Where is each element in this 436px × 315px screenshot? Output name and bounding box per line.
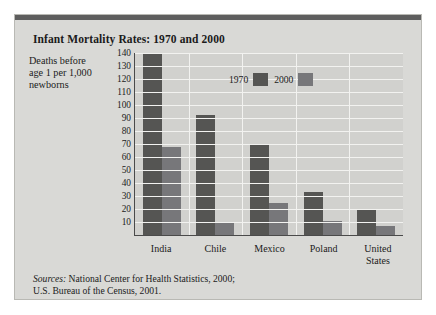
- x-label-line-1: Poland: [297, 243, 351, 255]
- chart-card: Infant Mortality Rates: 1970 and 2000 De…: [14, 14, 422, 300]
- y-tick-40: 40: [122, 179, 131, 188]
- legend-item-1970: 1970: [229, 73, 268, 86]
- x-label-line-1: United: [351, 243, 405, 255]
- gridline-10: [135, 222, 403, 223]
- legend-item-2000: 2000: [274, 73, 313, 86]
- vertical-gridline-4: [349, 53, 350, 235]
- bar-poland-1970: [304, 192, 323, 235]
- y-tick-30: 30: [122, 192, 131, 201]
- y-axis-tick-labels: 140130120110100908070605040302010: [107, 53, 131, 235]
- card-top-bar: [15, 15, 421, 20]
- gridline-50: [135, 170, 403, 171]
- y-tick-140: 140: [117, 49, 131, 58]
- y-axis-caption-line-1: Deaths before: [29, 55, 115, 67]
- y-axis-caption: Deaths before age 1 per 1,000 newborns: [29, 55, 115, 92]
- plot-area: 140130120110100908070605040302010 1970 2…: [107, 53, 405, 243]
- y-axis-caption-line-3: newborns: [29, 79, 115, 91]
- x-label-mexico: Mexico: [242, 243, 296, 266]
- sources-note: Sources: National Center for Health Stat…: [33, 273, 235, 296]
- gridline-20: [135, 209, 403, 210]
- gridline-30: [135, 196, 403, 197]
- y-tick-10: 10: [122, 218, 131, 227]
- y-tick-110: 110: [117, 88, 131, 97]
- gridline-110: [135, 92, 403, 93]
- page-title: Infant Mortality Rates: 1970 and 2000: [33, 33, 225, 45]
- x-label-poland: Poland: [297, 243, 351, 266]
- legend-label-1970: 1970: [229, 75, 248, 85]
- gridline-80: [135, 131, 403, 132]
- y-tick-90: 90: [122, 114, 131, 123]
- sources-line-2: U.S. Bureau of the Census, 2001.: [33, 285, 235, 297]
- chart-legend: 1970 2000: [229, 73, 313, 86]
- y-tick-60: 60: [122, 153, 131, 162]
- legend-swatch-1970: [253, 73, 268, 86]
- vertical-gridline-1: [189, 53, 190, 235]
- x-label-line-1: Mexico: [242, 243, 296, 255]
- x-label-line-1: Chile: [188, 243, 242, 255]
- gridline-90: [135, 118, 403, 119]
- x-label-line-2: States: [351, 255, 405, 267]
- chart-page: Infant Mortality Rates: 1970 and 2000 De…: [0, 0, 436, 315]
- x-axis-category-labels: IndiaChileMexicoPolandUnitedStates: [134, 243, 405, 266]
- bar-chile-1970: [196, 115, 215, 235]
- sources-label: Sources:: [33, 273, 66, 284]
- bar-mexico-2000: [269, 203, 288, 236]
- x-label-united-states: UnitedStates: [351, 243, 405, 266]
- gridline-100: [135, 105, 403, 106]
- gridline-60: [135, 157, 403, 158]
- y-axis-caption-line-2: age 1 per 1,000: [29, 67, 115, 79]
- y-tick-80: 80: [122, 127, 131, 136]
- y-tick-100: 100: [117, 101, 131, 110]
- y-tick-50: 50: [122, 166, 131, 175]
- y-tick-70: 70: [122, 140, 131, 149]
- bar-chile-2000: [215, 222, 234, 235]
- x-label-chile: Chile: [188, 243, 242, 266]
- x-label-india: India: [134, 243, 188, 266]
- gridline-130: [135, 66, 403, 67]
- sources-line-1: Sources: National Center for Health Stat…: [33, 273, 235, 285]
- sources-text-1: National Center for Health Statistics, 2…: [66, 273, 235, 284]
- y-tick-120: 120: [117, 75, 131, 84]
- legend-label-2000: 2000: [274, 75, 293, 85]
- gridline-70: [135, 144, 403, 145]
- legend-swatch-2000: [298, 73, 313, 86]
- y-tick-20: 20: [122, 205, 131, 214]
- x-label-line-1: India: [134, 243, 188, 255]
- gridline-140: [135, 53, 403, 54]
- bar-united-states-2000: [376, 226, 395, 235]
- y-tick-130: 130: [117, 62, 131, 71]
- gridline-40: [135, 183, 403, 184]
